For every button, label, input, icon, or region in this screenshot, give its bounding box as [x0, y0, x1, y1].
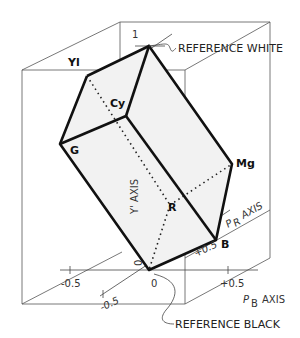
ypbpr-diagram: Yl Cy G Mg R B REFERENCE WHITE REFERENCE… — [0, 0, 300, 338]
pb-tick-pos: +0.5 — [220, 278, 244, 289]
vertex-label-green: G — [70, 144, 79, 157]
reference-white-label: REFERENCE WHITE — [178, 42, 283, 55]
svg-text:B: B — [251, 298, 258, 309]
y-axis-label: Y' AXIS — [129, 179, 140, 215]
pb-tick-neg: -0.5 — [61, 278, 81, 289]
svg-text:AXIS: AXIS — [238, 199, 265, 221]
y-tick-0: 0 — [133, 260, 144, 266]
vertex-label-magenta: Mg — [236, 157, 255, 170]
y-tick-1: 1 — [132, 29, 138, 40]
vertex-label-red: R — [168, 201, 177, 214]
vertex-label-cyan: Cy — [110, 97, 125, 110]
svg-text:P: P — [243, 294, 250, 305]
reference-black-label: REFERENCE BLACK — [175, 318, 281, 331]
vertex-label-blue: B — [221, 238, 229, 251]
svg-text:AXIS: AXIS — [262, 294, 285, 305]
pb-axis-label: P B AXIS — [243, 294, 285, 309]
pb-tick-zero: 0 — [151, 278, 157, 289]
vertex-label-yellow: Yl — [67, 56, 80, 69]
pr-tick-neg: -0.5 — [98, 295, 120, 313]
